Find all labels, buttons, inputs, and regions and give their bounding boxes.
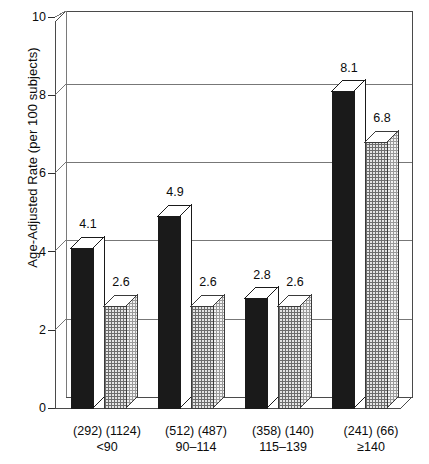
bar-g2-s1[interactable] [158, 205, 191, 408]
bar-g4-s1[interactable] [332, 80, 365, 408]
bar-g2-s2[interactable] [191, 295, 224, 408]
bar-group-3 [245, 287, 311, 408]
value-label-g4-s1: 8.1 [327, 62, 371, 75]
value-label-g2-s2: 2.6 [186, 276, 230, 289]
x-category-4-counts: (241) (66) [311, 423, 429, 439]
chart-figure: Age-Adjusted Rate (per 100 subjects) 10 … [0, 0, 429, 464]
y-axis-ticks [48, 17, 55, 408]
value-label-g1-s2: 2.6 [99, 276, 143, 289]
value-label-g2-s1: 4.9 [153, 186, 197, 199]
value-label-g3-s2: 2.6 [273, 276, 317, 289]
bar-g4-s2[interactable] [365, 131, 398, 408]
value-label-g1-s1: 4.1 [66, 218, 110, 231]
bar-g3-s1[interactable] [245, 287, 278, 408]
x-category-4: (241) (66) ≥140 [311, 423, 429, 455]
bar-g1-s1[interactable] [71, 237, 104, 408]
bar-g3-s2[interactable] [278, 295, 311, 408]
x-category-4-range: ≥140 [311, 439, 429, 455]
bar-g1-s2[interactable] [104, 295, 137, 408]
value-label-g4-s2: 6.8 [360, 112, 404, 125]
